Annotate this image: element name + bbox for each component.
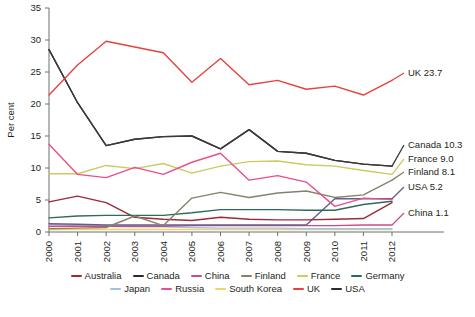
- y-tick-label: 20: [30, 98, 41, 109]
- legend-item-usa[interactable]: USA: [331, 283, 365, 294]
- legend-label: Canada: [147, 270, 180, 281]
- legend-swatch-icon: [191, 275, 202, 277]
- legend-label: Japan: [124, 283, 150, 294]
- y-axis: 05101520253035: [30, 2, 49, 237]
- y-tick-label: 10: [30, 162, 41, 173]
- legend-swatch-icon: [110, 288, 121, 290]
- series-line-germany: [49, 201, 392, 218]
- legend-swatch-icon: [241, 275, 252, 277]
- legend-label: UK: [307, 283, 320, 294]
- legend-swatch-icon: [297, 275, 308, 277]
- x-tick-label: 2000: [43, 241, 54, 262]
- x-tick-label: 2003: [129, 241, 140, 262]
- legend-swatch-icon: [293, 288, 304, 290]
- legend-label: France: [311, 270, 341, 281]
- legend-swatch-icon: [215, 288, 226, 290]
- x-tick-label: 2004: [158, 241, 169, 262]
- series-line-uk: [49, 41, 392, 95]
- legend-label: Finland: [255, 270, 286, 281]
- end-label-china: China 1.1: [408, 207, 449, 218]
- legend-item-japan[interactable]: Japan: [110, 283, 150, 294]
- end-label-leader: [392, 213, 404, 225]
- end-label-leader: [392, 172, 404, 180]
- x-tick-label: 2008: [272, 241, 283, 262]
- x-tick-label: 2011: [358, 241, 369, 261]
- legend-item-south-korea[interactable]: South Korea: [215, 283, 282, 294]
- y-tick-label: 25: [30, 66, 41, 77]
- legend-swatch-icon: [133, 275, 144, 277]
- legend-item-canada[interactable]: Canada: [133, 270, 180, 281]
- legend-label: Russia: [175, 283, 204, 294]
- y-tick-label: 15: [30, 130, 41, 141]
- end-label-leader: [392, 73, 404, 80]
- x-tick-label: 2001: [72, 241, 83, 262]
- y-tick-label: 35: [30, 2, 41, 13]
- end-label-leader: [392, 159, 404, 174]
- y-axis-title: Per cent: [5, 102, 16, 138]
- end-label-leader: [392, 145, 404, 166]
- x-tick-label: 2010: [329, 241, 340, 262]
- x-axis: 2000200120022003200420052006200720082009…: [43, 232, 444, 262]
- legend-swatch-icon: [161, 288, 172, 290]
- legend-label: China: [205, 270, 230, 281]
- legend-label: Australia: [85, 270, 122, 281]
- series-line-australia: [49, 196, 392, 220]
- legend-item-germany[interactable]: Germany: [351, 270, 404, 281]
- legend-swatch-icon: [351, 275, 362, 277]
- legend-item-china[interactable]: China: [191, 270, 230, 281]
- y-tick-label: 30: [30, 34, 41, 45]
- chart-legend: AustraliaCanadaChinaFinlandFranceGermany…: [0, 270, 475, 310]
- figure-footnote: [2, 305, 332, 316]
- x-tick-label: 2006: [215, 241, 226, 262]
- end-labels: UK 23.7Canada 10.3France 9.0Finland 8.1U…: [392, 67, 462, 225]
- legend-item-uk[interactable]: UK: [293, 283, 320, 294]
- x-tick-label: 2007: [243, 241, 254, 262]
- legend-item-russia[interactable]: Russia: [161, 283, 204, 294]
- end-label-uk: UK 23.7: [408, 67, 442, 78]
- x-tick-label: 2002: [101, 241, 112, 262]
- y-tick-label: 0: [36, 226, 41, 237]
- end-label-finland: Finland 8.1: [408, 166, 455, 177]
- legend-row-1: AustraliaCanadaChinaFinlandFranceGermany: [71, 270, 405, 281]
- end-label-usa: USA 5.2: [408, 181, 443, 192]
- end-label-canada: Canada 10.3: [408, 139, 462, 150]
- x-tick-label: 2005: [186, 241, 197, 262]
- end-label-leader: [392, 187, 404, 199]
- legend-swatch-icon: [331, 288, 342, 290]
- legend-label: Germany: [365, 270, 404, 281]
- series-line-usa-flat: [49, 199, 392, 225]
- legend-row-2: JapanRussiaSouth KoreaUKUSA: [110, 283, 365, 294]
- legend-item-finland[interactable]: Finland: [241, 270, 286, 281]
- series-line-canada: [49, 50, 392, 166]
- series-line-france: [49, 161, 392, 174]
- legend-swatch-icon: [71, 275, 82, 277]
- x-tick-label: 2009: [301, 241, 312, 262]
- legend-label: USA: [345, 283, 365, 294]
- legend-item-australia[interactable]: Australia: [71, 270, 122, 281]
- chart-figure: 05101520253035 2000200120022003200420052…: [0, 0, 475, 317]
- x-tick-label: 2012: [386, 241, 397, 262]
- end-label-france: France 9.0: [408, 153, 453, 164]
- series-lines: [49, 41, 392, 229]
- legend-label: South Korea: [229, 283, 282, 294]
- y-tick-label: 5: [36, 194, 41, 205]
- legend-item-france[interactable]: France: [297, 270, 341, 281]
